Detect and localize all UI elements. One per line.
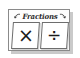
multiply-sign-icon: × — [18, 26, 34, 45]
curved-arrow-left-icon — [14, 13, 21, 21]
divide-sign-icon: ÷ — [47, 27, 61, 44]
fractions-tile-screenshot: Fractions × ÷ — [0, 0, 80, 58]
curved-arrow-right-icon — [59, 13, 66, 21]
operation-cards: × ÷ — [9, 21, 71, 51]
page-title: Fractions — [22, 12, 57, 20]
operation-card-divide[interactable]: ÷ — [40, 22, 69, 49]
operation-card-multiply[interactable]: × — [11, 22, 40, 49]
fractions-panel[interactable]: Fractions × ÷ — [8, 9, 70, 51]
